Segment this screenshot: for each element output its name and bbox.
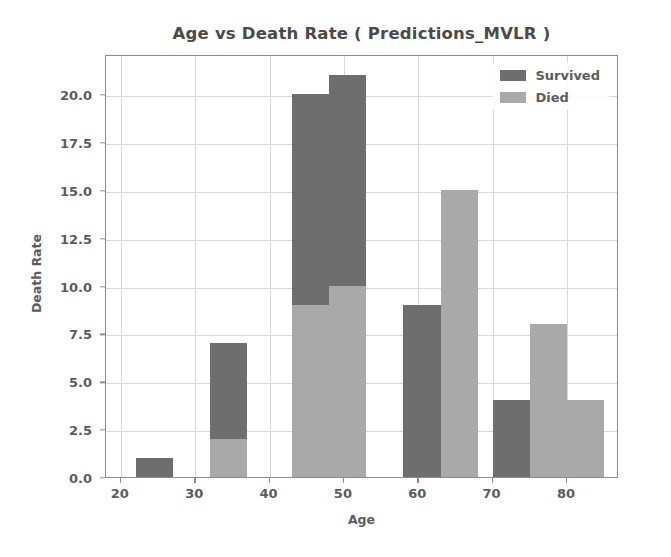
x-tick-label: 20 bbox=[95, 486, 145, 501]
y-tick-label: 15.0 bbox=[46, 183, 92, 198]
bar-died bbox=[329, 286, 366, 477]
y-tick-label: 7.5 bbox=[46, 327, 92, 342]
y-tick-mark bbox=[100, 334, 105, 335]
gridline-vertical bbox=[121, 56, 122, 477]
y-tick-mark bbox=[100, 382, 105, 383]
chart-figure: Age vs Death Rate ( Predictions_MVLR ) D… bbox=[0, 0, 671, 557]
x-tick-label: 70 bbox=[467, 486, 517, 501]
chart-legend: SurvivedDied bbox=[493, 63, 609, 110]
bar-survived bbox=[136, 458, 173, 477]
bar-survived bbox=[493, 400, 530, 477]
x-tick-label: 30 bbox=[169, 486, 219, 501]
x-tick-label: 50 bbox=[318, 486, 368, 501]
x-tick-mark bbox=[343, 478, 344, 483]
y-tick-mark bbox=[100, 477, 105, 478]
x-tick-label: 60 bbox=[392, 486, 442, 501]
legend-swatch-survived bbox=[500, 70, 526, 81]
x-tick-mark bbox=[417, 478, 418, 483]
y-tick-label: 0.0 bbox=[46, 471, 92, 486]
x-tick-mark bbox=[269, 478, 270, 483]
y-tick-mark bbox=[100, 429, 105, 430]
bar-died bbox=[567, 400, 604, 477]
x-tick-mark bbox=[492, 478, 493, 483]
plot-area: SurvivedDied bbox=[105, 55, 618, 478]
x-tick-label: 40 bbox=[244, 486, 294, 501]
x-axis-label: Age bbox=[105, 512, 618, 527]
y-tick-mark bbox=[100, 238, 105, 239]
legend-entry: Survived bbox=[500, 68, 600, 83]
y-tick-label: 2.5 bbox=[46, 423, 92, 438]
x-tick-mark bbox=[566, 478, 567, 483]
y-tick-mark bbox=[100, 95, 105, 96]
bar-died bbox=[210, 439, 247, 477]
bar-died bbox=[530, 324, 567, 477]
y-tick-mark bbox=[100, 286, 105, 287]
legend-label: Died bbox=[535, 90, 568, 105]
legend-label: Survived bbox=[535, 68, 600, 83]
y-tick-label: 17.5 bbox=[46, 136, 92, 151]
y-tick-mark bbox=[100, 142, 105, 143]
x-tick-mark bbox=[194, 478, 195, 483]
y-tick-label: 10.0 bbox=[46, 279, 92, 294]
gridline-vertical bbox=[270, 56, 271, 477]
y-tick-label: 20.0 bbox=[46, 88, 92, 103]
gridline-vertical bbox=[195, 56, 196, 477]
bar-died bbox=[441, 190, 478, 477]
y-tick-label: 5.0 bbox=[46, 375, 92, 390]
y-tick-mark bbox=[100, 190, 105, 191]
x-tick-label: 80 bbox=[541, 486, 591, 501]
y-tick-label: 12.5 bbox=[46, 231, 92, 246]
legend-swatch-died bbox=[500, 92, 526, 103]
y-axis-label: Death Rate bbox=[29, 214, 44, 334]
bar-survived bbox=[403, 305, 440, 477]
bar-died bbox=[292, 305, 329, 477]
x-tick-mark bbox=[120, 478, 121, 483]
legend-entry: Died bbox=[500, 90, 600, 105]
chart-title: Age vs Death Rate ( Predictions_MVLR ) bbox=[105, 24, 618, 43]
